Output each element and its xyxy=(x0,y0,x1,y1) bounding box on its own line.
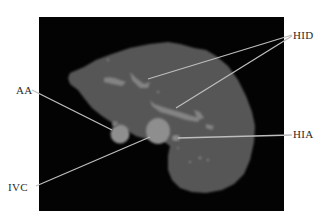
label-ivc: IVC xyxy=(8,181,28,193)
inferior-vena-cava xyxy=(146,118,170,144)
label-hid: HID xyxy=(293,29,313,41)
label-aa: AA xyxy=(16,84,33,96)
abdominal-aorta xyxy=(111,125,130,144)
liver-ct-figure xyxy=(0,0,335,223)
label-hia: HIA xyxy=(293,128,313,140)
